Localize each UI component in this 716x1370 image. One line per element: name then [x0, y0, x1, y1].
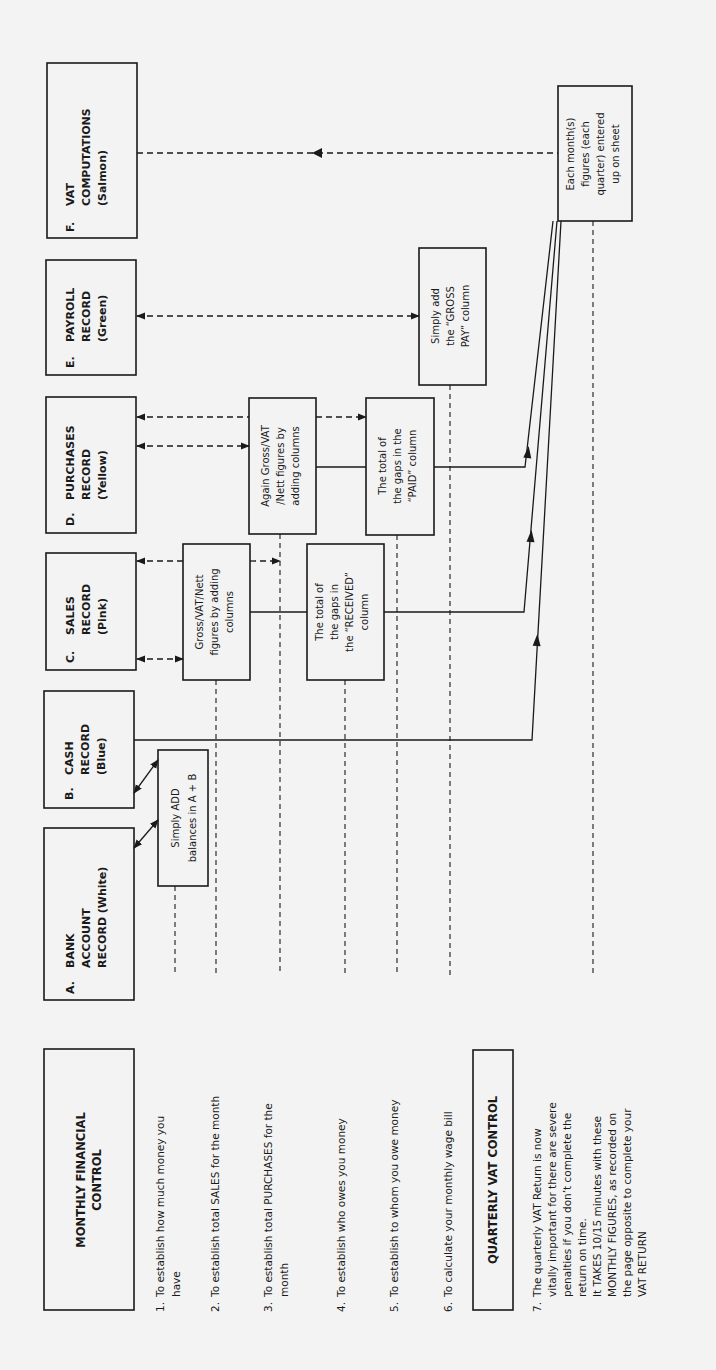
- record-box-d-purchases: D. PURCHASES RECORD (Yellow): [46, 397, 136, 533]
- svg-text:Simply ADD: Simply ADD: [170, 788, 181, 848]
- svg-text:To establish how much money yo: To establish how much money you: [154, 1116, 166, 1298]
- svg-text:3.: 3.: [262, 1302, 274, 1312]
- svg-text:Again Gross/VAT: Again Gross/VAT: [260, 424, 271, 506]
- svg-text:penalties if you don’t complet: penalties if you don’t complete the: [561, 1113, 573, 1297]
- svg-text:BANK: BANK: [64, 933, 77, 968]
- svg-text:the “RECEIVED”: the “RECEIVED”: [344, 572, 355, 652]
- box-each-month-figures: Each month(s) figures (each quarter) ent…: [558, 86, 632, 221]
- list-item: 7. The quarterly VAT Return is now vital…: [531, 1102, 648, 1312]
- svg-text:VAT RETURN: VAT RETURN: [636, 1231, 648, 1297]
- svg-text:To establish to whom you owe m: To establish to whom you owe money: [388, 1100, 400, 1298]
- svg-text:the gaps in: the gaps in: [329, 584, 340, 640]
- svg-text:5.: 5.: [388, 1302, 400, 1312]
- box-paid-gaps-total: The total of the gaps in the “PAID” colu…: [366, 398, 434, 535]
- monthly-financial-control: MONTHLY FINANCIAL CONTROL 1. To establis…: [44, 1049, 454, 1312]
- svg-text:(Yellow): (Yellow): [96, 450, 109, 500]
- svg-text:the gaps in the: the gaps in the: [392, 428, 403, 504]
- svg-text:quarter) entered: quarter) entered: [595, 112, 606, 195]
- svg-text:D.: D.: [64, 513, 77, 526]
- svg-text:MONTHLY FIGURES, as recorded o: MONTHLY FIGURES, as recorded on: [606, 1113, 618, 1297]
- svg-text:PURCHASES: PURCHASES: [64, 425, 77, 500]
- svg-text:(Salmon): (Salmon): [96, 150, 109, 206]
- svg-text:The total of: The total of: [314, 583, 325, 642]
- svg-text:ACCOUNT: ACCOUNT: [80, 908, 93, 968]
- svg-text:figures by adding: figures by adding: [209, 568, 220, 655]
- svg-text:To calculate your monthly wage: To calculate your monthly wage bill: [442, 1111, 454, 1298]
- svg-text:E.: E.: [64, 356, 77, 368]
- svg-text:The quarterly VAT Return is no: The quarterly VAT Return is now: [531, 1128, 543, 1298]
- record-box-a-bank: A. BANK ACCOUNT RECORD (White): [44, 828, 134, 1000]
- svg-text:vitally important for there ar: vitally important for there are severe: [546, 1102, 558, 1297]
- list-item: 3. To establish total PURCHASES for the …: [262, 1103, 290, 1312]
- connector-lines: [134, 148, 593, 975]
- svg-text:1.: 1.: [154, 1302, 166, 1312]
- svg-text:SALES: SALES: [64, 596, 77, 635]
- svg-text:adding columns: adding columns: [290, 426, 301, 506]
- svg-text:Gross/VAT/Nett: Gross/VAT/Nett: [194, 575, 205, 650]
- section-title: MONTHLY FINANCIAL: [74, 1112, 88, 1248]
- svg-text:RECORD: RECORD: [80, 291, 93, 342]
- svg-text:To establish who owes you mone: To establish who owes you money: [335, 1118, 347, 1298]
- svg-text:7.: 7.: [531, 1302, 543, 1312]
- svg-text:(Blue): (Blue): [95, 737, 108, 775]
- svg-text:RECORD: RECORD: [79, 724, 92, 775]
- svg-text:CASH: CASH: [63, 741, 76, 775]
- box-gross-pay: Simply add the “GROSS PAY” column: [419, 248, 486, 385]
- svg-text:(Pink): (Pink): [96, 598, 109, 635]
- svg-text:B.: B.: [63, 787, 76, 800]
- financial-control-diagram: F. VAT COMPUTATIONS (Salmon) E. PAYROLL …: [0, 0, 716, 1370]
- svg-text:the page opposite to complete: the page opposite to complete your: [621, 1108, 633, 1297]
- arrow-icon: [312, 148, 322, 158]
- svg-text:“PAID” column: “PAID” column: [407, 430, 418, 503]
- svg-text:return on time.: return on time.: [576, 1218, 588, 1297]
- svg-text:the “GROSS: the “GROSS: [445, 286, 456, 346]
- record-box-c-sales: C. SALES RECORD (Pink): [46, 553, 136, 670]
- svg-text:2.: 2.: [209, 1302, 221, 1312]
- svg-text:To establish total PURCHASES f: To establish total PURCHASES for the: [262, 1103, 274, 1298]
- svg-text:RECORD: RECORD: [80, 584, 93, 635]
- record-letter: F.: [64, 222, 77, 232]
- list-item: 4. To establish who owes you money: [335, 1118, 347, 1312]
- list-item: 6. To calculate your monthly wage bill: [442, 1111, 454, 1312]
- svg-text:COMPUTATIONS: COMPUTATIONS: [80, 108, 93, 206]
- svg-text:balances in A + B: balances in A + B: [187, 774, 198, 863]
- svg-text:columns: columns: [224, 591, 235, 633]
- list-item: 2. To establish total SALES for the mont…: [209, 1096, 221, 1312]
- box-add-a-plus-b: Simply ADD balances in A + B: [158, 750, 208, 886]
- svg-text:Each month(s): Each month(s): [565, 117, 576, 190]
- svg-text:up on sheet: up on sheet: [610, 124, 621, 183]
- svg-text:C.: C.: [64, 651, 77, 663]
- svg-text:It TAKES 10/15 minutes with th: It TAKES 10/15 minutes with these: [591, 1116, 603, 1297]
- svg-text:have: have: [170, 1271, 182, 1297]
- record-box-f-vat: F. VAT COMPUTATIONS (Salmon): [47, 63, 137, 238]
- svg-text:CONTROL: CONTROL: [90, 1149, 104, 1211]
- svg-text:6.: 6.: [442, 1302, 454, 1312]
- box-sales-gross-vat-nett: Gross/VAT/Nett figures by adding columns: [183, 544, 250, 680]
- svg-text:figures (each: figures (each: [580, 121, 591, 186]
- section-title: QUARTERLY VAT CONTROL: [486, 1095, 500, 1264]
- list-item: 5. To establish to whom you owe money: [388, 1100, 400, 1312]
- svg-text:RECORD (White): RECORD (White): [96, 867, 109, 968]
- box-received-gaps-total: The total of the gaps in the “RECEIVED” …: [307, 544, 384, 680]
- svg-text:PAY” column: PAY” column: [460, 285, 471, 348]
- quarterly-vat-control: QUARTERLY VAT CONTROL 7. The quarterly V…: [473, 1050, 648, 1312]
- svg-text:month: month: [278, 1263, 290, 1297]
- box-purchases-gross-vat-nett: Again Gross/VAT /Nett figures by adding …: [249, 398, 316, 534]
- svg-text:4.: 4.: [335, 1302, 347, 1312]
- svg-text:(Green): (Green): [96, 295, 109, 342]
- svg-text:RECORD: RECORD: [80, 449, 93, 500]
- svg-text:To establish total SALES for t: To establish total SALES for the month: [209, 1096, 221, 1298]
- svg-text:A.: A.: [64, 981, 77, 994]
- svg-text:column: column: [359, 594, 370, 631]
- svg-text:Simply add: Simply add: [430, 288, 441, 344]
- record-box-b-cash: B. CASH RECORD (Blue): [44, 691, 134, 808]
- record-box-e-payroll: E. PAYROLL RECORD (Green): [46, 260, 136, 375]
- list-item: 1. To establish how much money you have: [154, 1116, 182, 1312]
- svg-text:VAT: VAT: [64, 183, 77, 206]
- svg-text:/Nett figures by: /Nett figures by: [275, 427, 286, 505]
- svg-text:PAYROLL: PAYROLL: [64, 288, 77, 342]
- svg-text:The total of: The total of: [377, 437, 388, 496]
